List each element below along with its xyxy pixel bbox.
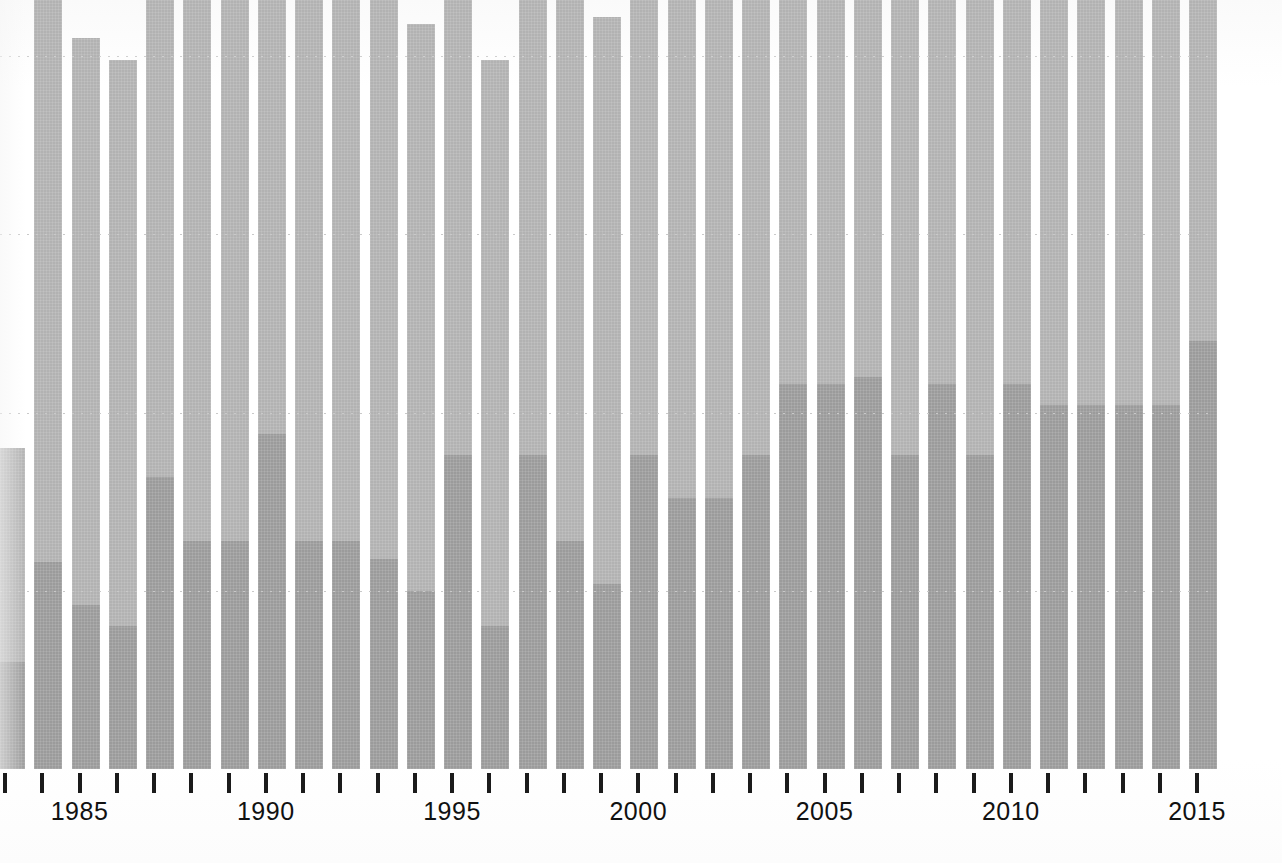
x-tick-2012 <box>1083 773 1087 793</box>
bar-2006[interactable] <box>854 0 882 769</box>
x-tick-1991 <box>301 773 305 793</box>
bar-2004-lower-segment <box>779 384 807 769</box>
x-tick-label-2005: 2005 <box>796 797 854 826</box>
bar-1999-lower-segment <box>593 584 621 769</box>
x-axis: 1985199019952000200520102015 <box>0 769 1282 863</box>
x-tick-2002 <box>711 773 715 793</box>
bar-1990[interactable] <box>258 0 286 769</box>
bar-2010[interactable] <box>1003 0 1031 769</box>
x-tick-2015 <box>1195 773 1199 793</box>
x-tick-1997 <box>525 773 529 793</box>
bar-2007-lower-segment <box>891 455 919 769</box>
bar-1994-lower-segment <box>407 591 435 769</box>
x-tick-label-2015: 2015 <box>1168 797 1226 826</box>
bar-1997-lower-segment <box>519 455 547 769</box>
bar-1983[interactable] <box>0 448 25 769</box>
x-tick-1995 <box>450 773 454 793</box>
x-tick-label-1990: 1990 <box>237 797 295 826</box>
bar-2010-lower-segment <box>1003 384 1031 769</box>
x-tick-1998 <box>562 773 566 793</box>
bar-1998-lower-segment <box>556 541 584 769</box>
bar-2007[interactable] <box>891 0 919 769</box>
bar-1991-lower-segment <box>295 541 323 769</box>
x-tick-1993 <box>376 773 380 793</box>
bar-1988-lower-segment <box>183 541 211 769</box>
x-tick-1989 <box>227 773 231 793</box>
x-tick-1999 <box>599 773 603 793</box>
x-tick-1996 <box>487 773 491 793</box>
x-tick-1988 <box>189 773 193 793</box>
bar-1987-lower-segment <box>146 477 174 769</box>
bar-2015-lower-segment <box>1189 341 1217 769</box>
bar-1984[interactable] <box>34 0 62 769</box>
x-tick-1985 <box>78 773 82 793</box>
x-tick-label-2000: 2000 <box>609 797 667 826</box>
x-tick-1986 <box>115 773 119 793</box>
bar-1998[interactable] <box>556 0 584 769</box>
bar-1987[interactable] <box>146 0 174 769</box>
bar-2000[interactable] <box>630 0 658 769</box>
bar-2003-lower-segment <box>742 455 770 769</box>
bar-1996-lower-segment <box>481 626 509 769</box>
bar-2004[interactable] <box>779 0 807 769</box>
x-tick-1992 <box>338 773 342 793</box>
plot-area <box>0 0 1282 769</box>
bar-1989[interactable] <box>221 0 249 769</box>
bar-1984-lower-segment <box>34 562 62 769</box>
x-tick-1984 <box>40 773 44 793</box>
bar-2006-lower-segment <box>854 377 882 769</box>
bar-1992-lower-segment <box>332 541 360 769</box>
bar-1983-lower-segment <box>0 662 25 769</box>
bar-1991[interactable] <box>295 0 323 769</box>
gridline-100 <box>0 56 1210 57</box>
x-tick-label-2010: 2010 <box>982 797 1040 826</box>
bar-2000-lower-segment <box>630 455 658 769</box>
gridline-75 <box>0 234 1210 235</box>
bar-1997[interactable] <box>519 0 547 769</box>
bar-2012[interactable] <box>1077 0 1105 769</box>
bar-1988[interactable] <box>183 0 211 769</box>
bar-1999[interactable] <box>593 17 621 769</box>
x-tick-1990 <box>264 773 268 793</box>
bar-1996[interactable] <box>481 60 509 769</box>
bar-2013[interactable] <box>1115 0 1143 769</box>
bar-1995[interactable] <box>444 0 472 769</box>
bar-1990-lower-segment <box>258 434 286 769</box>
bar-1985-lower-segment <box>72 605 100 769</box>
bar-1986-lower-segment <box>109 626 137 769</box>
bar-2011[interactable] <box>1040 0 1068 769</box>
x-tick-2009 <box>972 773 976 793</box>
bar-1985[interactable] <box>72 38 100 769</box>
bar-1989-lower-segment <box>221 541 249 769</box>
bar-1993[interactable] <box>370 0 398 769</box>
x-tick-2000 <box>636 773 640 793</box>
bar-1995-lower-segment <box>444 455 472 769</box>
bar-2014-lower-segment <box>1152 405 1180 769</box>
bar-1994[interactable] <box>407 24 435 769</box>
bar-2013-lower-segment <box>1115 405 1143 769</box>
bar-2009-lower-segment <box>966 455 994 769</box>
bar-2012-lower-segment <box>1077 405 1105 769</box>
bar-2009[interactable] <box>966 0 994 769</box>
bar-2001[interactable] <box>668 0 696 769</box>
bar-2008-lower-segment <box>928 384 956 769</box>
x-tick-1983 <box>3 773 7 793</box>
bar-2003[interactable] <box>742 0 770 769</box>
bar-2015[interactable] <box>1189 0 1217 769</box>
gridline-50 <box>0 413 1210 414</box>
x-tick-2001 <box>674 773 678 793</box>
bar-2008[interactable] <box>928 0 956 769</box>
x-tick-1987 <box>152 773 156 793</box>
bar-2005[interactable] <box>817 0 845 769</box>
bar-1986[interactable] <box>109 60 137 769</box>
bar-2002[interactable] <box>705 0 733 769</box>
x-tick-2005 <box>823 773 827 793</box>
bar-2002-lower-segment <box>705 498 733 769</box>
bar-1992[interactable] <box>332 0 360 769</box>
x-tick-2007 <box>897 773 901 793</box>
bar-series-group <box>0 0 1282 769</box>
bar-chart: 1985199019952000200520102015 <box>0 0 1282 863</box>
x-tick-label-1985: 1985 <box>51 797 109 826</box>
x-tick-2008 <box>934 773 938 793</box>
bar-2014[interactable] <box>1152 0 1180 769</box>
